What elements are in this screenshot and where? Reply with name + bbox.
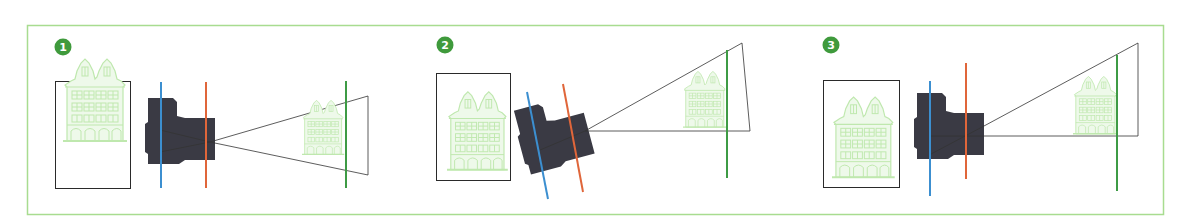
diagram: 1 2 bbox=[0, 0, 1191, 222]
camera-icon bbox=[145, 98, 215, 164]
step-number-2: 2 bbox=[441, 39, 449, 52]
step-number-3: 3 bbox=[827, 39, 835, 52]
building-icon-image bbox=[63, 59, 127, 141]
building-icon-subject bbox=[683, 71, 727, 127]
camera-icon bbox=[511, 93, 596, 175]
panel-2: 2 bbox=[437, 37, 751, 200]
building-icon-subject bbox=[1073, 76, 1118, 133]
building-icon-subject bbox=[302, 100, 344, 154]
panel-3: 3 bbox=[823, 37, 1139, 197]
panel-1: 1 bbox=[55, 39, 369, 189]
step-number-1: 1 bbox=[59, 41, 67, 54]
camera-icon bbox=[914, 93, 984, 159]
